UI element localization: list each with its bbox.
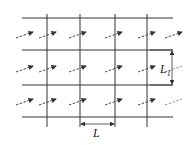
flow-arrow xyxy=(105,66,122,72)
vertical-lines xyxy=(47,14,147,127)
flow-arrow xyxy=(69,32,86,38)
vertical-dimension: L1 xyxy=(150,50,173,85)
flow-arrow xyxy=(105,99,122,105)
flow-arrows xyxy=(16,32,182,105)
flow-arrow xyxy=(105,32,122,38)
flow-arrow xyxy=(165,99,182,105)
flow-arrow xyxy=(69,99,86,105)
flow-arrow xyxy=(69,66,86,72)
horizontal-dimension: L xyxy=(81,124,114,140)
horizontal-spacing-label: L xyxy=(92,126,100,140)
flow-arrow xyxy=(16,99,33,105)
flow-arrow xyxy=(16,32,33,38)
flow-arrow xyxy=(16,66,33,72)
vertical-spacing-label: L1 xyxy=(159,62,171,78)
grid-diagram: L1 L xyxy=(0,0,196,145)
flow-arrow xyxy=(165,32,182,38)
